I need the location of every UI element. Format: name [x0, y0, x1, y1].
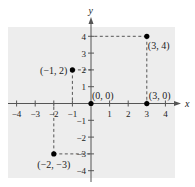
y-tick-label: 4 — [82, 32, 87, 42]
y-axis-arrow-icon — [89, 17, 94, 24]
y-tick-label: 1 — [82, 82, 87, 92]
data-point — [144, 101, 149, 106]
x-axis-arrow-icon — [174, 101, 181, 106]
y-tick-label: 2 — [82, 65, 87, 75]
data-point — [144, 34, 149, 39]
y-tick-label: 3 — [82, 49, 87, 59]
point-label: (3, 0) — [149, 90, 171, 102]
x-axis-label: x — [184, 98, 190, 109]
data-point — [70, 67, 75, 72]
point-label: (0, 0) — [92, 90, 114, 102]
y-tick-label: −3 — [76, 149, 86, 159]
x-tick-label: 4 — [163, 109, 168, 119]
x-tick-label: 1 — [107, 109, 112, 119]
coordinate-plane-chart: xy −4−3−2−11234−4−3−2−11234 (−1, 2)(3, 4… — [0, 0, 195, 187]
y-axis-label: y — [88, 5, 94, 16]
y-tick-label: −4 — [76, 166, 86, 176]
data-point — [51, 151, 56, 156]
x-tick-label: −3 — [30, 109, 40, 119]
point-label: (−1, 2) — [40, 65, 67, 77]
y-tick-label: −1 — [76, 116, 86, 126]
x-tick-label: −2 — [49, 109, 59, 119]
x-tick-label: −4 — [12, 109, 22, 119]
x-tick-label: 2 — [126, 109, 131, 119]
point-label: (−2, −3) — [37, 159, 70, 171]
point-label: (3, 4) — [148, 40, 170, 52]
y-tick-label: −2 — [76, 133, 86, 143]
x-tick-label: 3 — [145, 109, 150, 119]
data-point — [88, 101, 93, 106]
